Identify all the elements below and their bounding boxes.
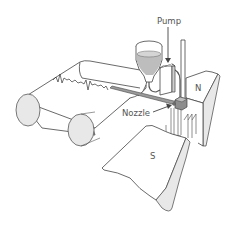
label-nozzle: Nozzle [122,108,150,118]
label-south-pole: S [150,151,155,161]
support-rod [181,40,185,105]
pump [160,64,175,95]
north-magnet-pole [186,71,220,146]
rear-roller [16,94,40,126]
south-magnet-pole [102,125,190,211]
nozzle-pointer-arrow [153,106,169,112]
nozzle [173,97,187,110]
label-pump: Pump [157,16,181,26]
pump-pointer-arrowhead [165,58,171,63]
chart-recorder-diagram: Pump N Nozzle S [0,0,231,236]
label-north-pole: N [195,83,201,93]
